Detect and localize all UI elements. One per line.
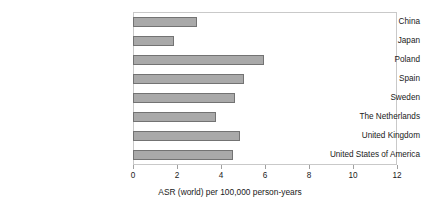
bar — [133, 150, 233, 160]
x-tick-label: 2 — [165, 170, 189, 181]
x-tick-mark — [133, 165, 134, 169]
bar-row — [133, 69, 397, 88]
x-tick-label: 6 — [253, 170, 277, 181]
bar — [133, 36, 174, 46]
x-tick-mark — [309, 165, 310, 169]
bar-row — [133, 108, 397, 127]
bar — [133, 131, 240, 141]
x-tick-label: 8 — [297, 170, 321, 181]
x-tick-label: 0 — [121, 170, 145, 181]
bar — [133, 17, 197, 27]
x-tick-label: 4 — [209, 170, 233, 181]
bar-row — [133, 89, 397, 108]
bar — [133, 112, 216, 122]
x-tick-mark — [353, 165, 354, 169]
bar-row — [133, 12, 397, 31]
x-axis-title: ASR (world) per 100,000 person-years — [0, 187, 424, 197]
bar — [133, 55, 264, 65]
bar — [133, 93, 235, 103]
x-tick-label: 12 — [385, 170, 409, 181]
x-tick-mark — [177, 165, 178, 169]
bar-row — [133, 50, 397, 69]
bar-row — [133, 127, 397, 146]
x-tick-mark — [397, 165, 398, 169]
x-tick-mark — [221, 165, 222, 169]
x-tick-label: 10 — [341, 170, 365, 181]
bar-chart: ChinaJapanPolandSpainSwedenThe Netherlan… — [0, 0, 424, 211]
x-tick-mark — [265, 165, 266, 169]
bar-row — [133, 146, 397, 165]
bar — [133, 74, 244, 84]
bar-row — [133, 31, 397, 50]
